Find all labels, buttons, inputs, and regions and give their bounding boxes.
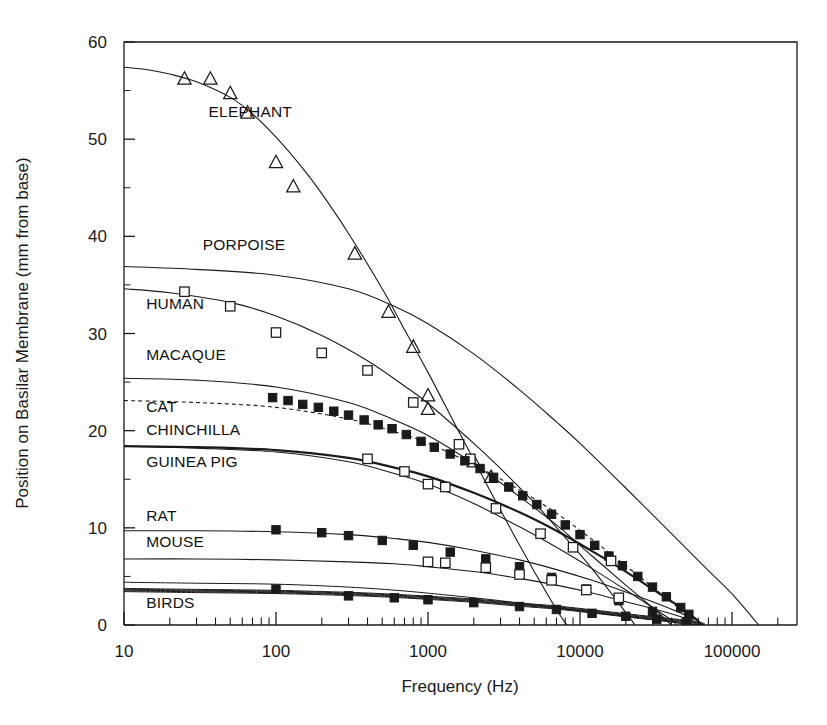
data-point-filled-square	[424, 596, 432, 604]
data-point-open-square	[481, 563, 490, 572]
data-point-filled-square	[390, 594, 398, 602]
data-point-filled-square	[476, 464, 484, 472]
data-point-filled-square	[344, 531, 352, 539]
data-point-filled-square	[533, 500, 541, 508]
y-axis-tick-labels: 0102030405060	[88, 33, 107, 635]
y-tick-label: 50	[88, 130, 107, 149]
data-point-filled-square	[378, 536, 386, 544]
data-point-open-square	[515, 570, 524, 579]
data-point-triangle	[287, 180, 300, 192]
series-label-birds: BIRDS	[146, 594, 194, 611]
series-label-rat: RAT	[146, 507, 177, 524]
data-point-filled-square	[634, 572, 642, 580]
data-point-filled-square	[618, 562, 626, 570]
data-point-filled-square	[561, 521, 569, 529]
x-tick-label: 100000	[704, 642, 761, 661]
data-point-filled-square	[519, 492, 527, 500]
data-point-filled-square	[685, 610, 693, 618]
data-point-filled-square	[388, 425, 396, 433]
series-curve	[124, 266, 759, 625]
series-label-human: HUMAN	[146, 295, 204, 312]
y-tick-label: 60	[88, 33, 107, 52]
data-point-filled-square	[272, 526, 280, 534]
y-tick-label: 20	[88, 422, 107, 441]
y-tick-label: 40	[88, 227, 107, 246]
data-point-filled-square	[648, 583, 656, 591]
data-point-filled-square	[653, 615, 661, 623]
data-point-filled-square	[330, 407, 338, 415]
data-point-open-square	[363, 454, 372, 463]
data-point-filled-square	[374, 421, 382, 429]
data-point-filled-square	[515, 602, 523, 610]
series-label-mouse: MOUSE	[146, 533, 204, 550]
data-point-open-square	[441, 482, 450, 491]
x-tick-label: 100	[262, 642, 290, 661]
data-point-triangle	[382, 305, 395, 317]
data-point-open-square	[614, 593, 623, 602]
data-point-open-square	[363, 366, 372, 375]
data-point-filled-square	[318, 528, 326, 536]
series-label-elephant: ELEPHANT	[209, 103, 293, 120]
data-point-filled-square	[314, 403, 322, 411]
series-label-guinea-pig: GUINEA PIG	[146, 453, 238, 470]
x-axis-tick-labels: 10100100010000100000	[115, 642, 761, 661]
data-point-open-square	[423, 557, 432, 566]
data-point-open-square	[409, 398, 418, 407]
y-tick-label: 30	[88, 325, 107, 344]
data-point-filled-square	[402, 430, 410, 438]
data-point-filled-square	[552, 605, 560, 613]
data-point-open-square	[226, 302, 235, 311]
figure-container: 10100100010000100000 0102030405060 ELEPH…	[0, 0, 827, 725]
series-label-macaque: MACAQUE	[146, 346, 226, 363]
data-point-filled-square	[446, 548, 454, 556]
data-point-open-square	[606, 556, 615, 565]
data-point-filled-square	[360, 416, 368, 424]
data-point-open-square	[568, 543, 577, 552]
series-curve	[124, 582, 686, 625]
series-label-chinchilla: CHINCHILLA	[146, 421, 241, 438]
y-axis-title: Position on Basilar Membrane (mm from ba…	[13, 157, 32, 508]
data-point-filled-square	[662, 593, 670, 601]
data-point-filled-square	[505, 483, 513, 491]
data-point-open-square	[454, 440, 463, 449]
data-point-filled-square	[344, 592, 352, 600]
data-point-open-square	[547, 576, 556, 585]
data-point-triangle	[204, 72, 217, 84]
data-point-filled-square	[648, 607, 656, 615]
data-point-filled-square	[591, 541, 599, 549]
series-label-cat: CAT	[146, 398, 177, 415]
basilar-membrane-chart: 10100100010000100000 0102030405060 ELEPH…	[0, 0, 827, 725]
data-point-filled-square	[272, 585, 280, 593]
data-point-filled-square	[446, 450, 454, 458]
data-point-filled-square	[430, 443, 438, 451]
data-point-open-square	[423, 479, 432, 488]
data-point-filled-square	[547, 510, 555, 518]
data-point-filled-square	[489, 473, 497, 481]
data-point-open-square	[582, 585, 591, 594]
data-point-open-square	[441, 558, 450, 567]
data-point-filled-square	[461, 457, 469, 465]
data-point-open-square	[400, 467, 409, 476]
x-tick-label: 10000	[556, 642, 603, 661]
y-tick-label: 0	[98, 616, 107, 635]
data-point-triangle	[269, 155, 282, 167]
data-point-filled-square	[576, 530, 584, 538]
x-tick-label: 10	[115, 642, 134, 661]
plot-frame	[124, 42, 797, 625]
data-point-filled-square	[417, 437, 425, 445]
series-inline-labels: ELEPHANTPORPOISEHUMANMACAQUECATCHINCHILL…	[146, 103, 292, 612]
data-point-triangle	[348, 247, 361, 259]
data-point-filled-square	[344, 411, 352, 419]
data-point-filled-square	[470, 598, 478, 606]
data-point-filled-square	[409, 541, 417, 549]
y-axis-ticks	[124, 42, 135, 625]
series-label-porpoise: PORPOISE	[203, 236, 286, 253]
data-point-filled-square	[268, 393, 276, 401]
data-point-filled-square	[482, 555, 490, 563]
data-point-filled-square	[284, 396, 292, 404]
y-tick-label: 10	[88, 519, 107, 538]
data-point-filled-square	[622, 612, 630, 620]
data-point-open-square	[536, 529, 545, 538]
data-point-open-square	[491, 504, 500, 513]
x-tick-label: 1000	[409, 642, 447, 661]
